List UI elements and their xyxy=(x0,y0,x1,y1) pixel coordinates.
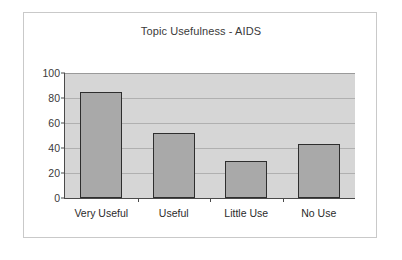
x-axis-tick-mark xyxy=(283,198,284,202)
y-axis-tick-label: 100 xyxy=(42,67,60,79)
bar[interactable] xyxy=(225,161,267,199)
bar[interactable] xyxy=(298,144,340,198)
bar-slot xyxy=(210,73,283,198)
y-axis-tick-label: 60 xyxy=(48,117,60,129)
y-axis-tick-label: 0 xyxy=(54,192,60,204)
plot-area: 020406080100 Very UsefulUsefulLittle Use… xyxy=(64,73,355,199)
bar-slot xyxy=(65,73,138,198)
bar[interactable] xyxy=(80,92,122,198)
y-axis-tick-label: 20 xyxy=(48,167,60,179)
x-axis-tick-mark xyxy=(210,198,211,202)
x-axis-category-label: No Use xyxy=(301,207,336,219)
x-axis-category-label: Little Use xyxy=(224,207,268,219)
x-axis-tick-mark xyxy=(138,198,139,202)
y-axis-tick-label: 40 xyxy=(48,142,60,154)
chart-frame: Topic Usefulness - AIDS 020406080100 Ver… xyxy=(23,12,377,238)
bar-slot xyxy=(138,73,211,198)
chart-title: Topic Usefulness - AIDS xyxy=(24,25,378,37)
y-axis-tick-label: 80 xyxy=(48,92,60,104)
x-axis-category-label: Very Useful xyxy=(74,207,128,219)
x-axis-category-label: Useful xyxy=(159,207,189,219)
bars-series xyxy=(65,73,355,198)
bar-slot xyxy=(283,73,356,198)
bar[interactable] xyxy=(153,133,195,198)
